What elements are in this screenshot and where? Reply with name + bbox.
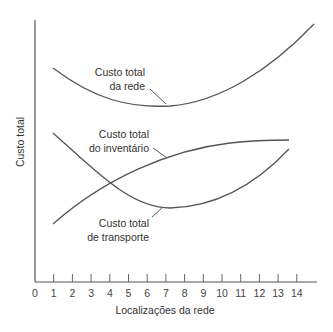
curve-total-network-cost — [53, 24, 314, 106]
x-tick-label: 14 — [291, 287, 303, 299]
label-network-line2: da rede — [109, 80, 145, 92]
x-tick-label: 11 — [235, 287, 246, 299]
x-tick-label: 0 — [32, 287, 38, 299]
leader-transport — [152, 207, 163, 217]
x-tick-label: 12 — [254, 287, 266, 299]
label-network-line1: Custo total — [95, 66, 145, 78]
cost-chart: 01234567891011121314 Custo total Localiz… — [0, 0, 333, 332]
x-tick-label: 7 — [163, 287, 169, 299]
x-axis-tick-labels: 01234567891011121314 — [32, 287, 303, 299]
x-tick-label: 2 — [69, 287, 75, 299]
leader-inventory — [153, 148, 167, 158]
x-tick-label: 3 — [88, 287, 94, 299]
label-transport-line1: Custo total — [99, 217, 149, 229]
label-transport-line2: de transporte — [87, 231, 149, 243]
x-axis-label: Localizações da rede — [115, 304, 214, 316]
label-inventory-line1: Custo total — [99, 128, 149, 140]
x-tick-label: 5 — [126, 287, 132, 299]
x-tick-label: 10 — [216, 287, 228, 299]
x-tick-label: 8 — [182, 287, 188, 299]
leader-network — [150, 89, 166, 104]
x-tick-label: 1 — [51, 287, 57, 299]
x-axis-ticks — [54, 274, 297, 282]
x-tick-label: 9 — [200, 287, 206, 299]
x-tick-label: 13 — [272, 287, 284, 299]
x-tick-label: 4 — [107, 287, 113, 299]
y-axis-label: Custo total — [14, 117, 26, 167]
label-inventory-line2: do inventário — [89, 142, 149, 154]
x-tick-label: 6 — [144, 287, 150, 299]
